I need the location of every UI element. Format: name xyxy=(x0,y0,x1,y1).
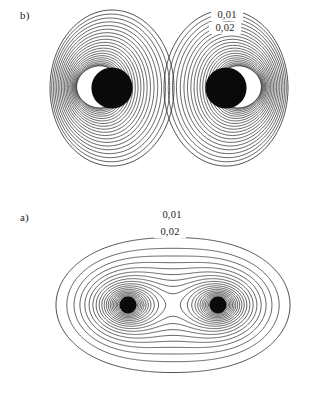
contour-group-left-lobe xyxy=(50,10,174,166)
panel-a: a) 0,01 0,02 xyxy=(0,200,324,418)
contour-core xyxy=(91,67,132,108)
contour-line xyxy=(56,237,290,372)
contour-line xyxy=(85,268,261,343)
panel-a-contour-plot: 0,01 0,02 xyxy=(0,200,324,418)
contour-line xyxy=(74,256,272,354)
panel-b: b) 0,01 0,02 xyxy=(0,0,324,200)
contour-core xyxy=(120,297,137,314)
panel-b-contour-plot: 0,01 0,02 xyxy=(0,0,324,200)
contour-level-label-0.01: 0,01 xyxy=(217,9,236,20)
contour-line xyxy=(67,248,279,361)
contour-core xyxy=(210,297,227,314)
contour-level-label-0.01: 0,01 xyxy=(162,209,181,220)
contour-line xyxy=(93,276,253,335)
contour-core xyxy=(205,67,246,108)
figure-root: b) 0,01 0,02 a) 0,01 0,02 xyxy=(0,0,324,418)
contour-line xyxy=(80,262,266,347)
contour-level-label-0.02: 0,02 xyxy=(160,226,179,237)
contour-group-merged-wells xyxy=(56,237,290,372)
contour-level-label-0.02: 0,02 xyxy=(215,22,234,33)
